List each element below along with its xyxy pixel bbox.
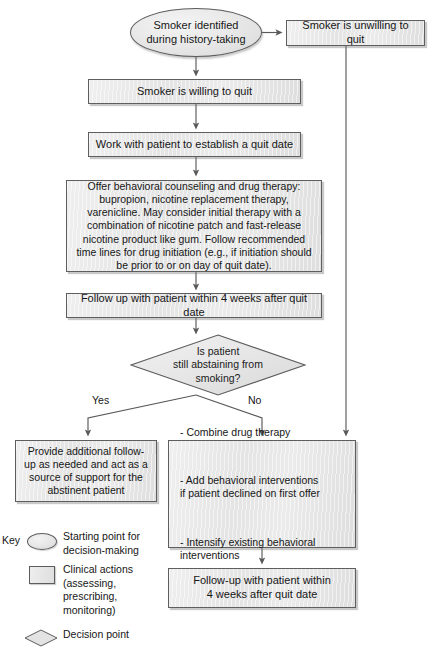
intensify-item-3: - Intensify existing behavioral interven… <box>180 536 320 562</box>
node-therapy-text: Offer behavioral counseling and drug the… <box>67 180 321 273</box>
legend-ellipse-icon <box>27 533 57 550</box>
node-provide-additional-follow-up[interactable]: Provide additional follow-up as needed a… <box>15 440 157 502</box>
node-final-follow-up-text: Follow-up with patient within 4 weeks af… <box>187 574 337 602</box>
legend-label-start-point: Starting point for decision-making <box>63 530 178 557</box>
legend-diamond-icon <box>24 629 58 647</box>
node-start-line1: Smoker identified <box>146 19 245 33</box>
intensify-item-2: - Add behavioral interventions if patien… <box>180 474 320 500</box>
node-start-smoker-identified[interactable]: Smoker identified during history-taking <box>130 8 262 57</box>
node-unwilling-text: Smoker is unwilling to quit <box>287 19 424 47</box>
node-intensify-interventions[interactable]: - Combine drug therapy - Add behavioral … <box>168 440 356 548</box>
intensify-spacer-2 <box>180 514 320 523</box>
node-offer-therapy[interactable]: Offer behavioral counseling and drug the… <box>66 180 322 272</box>
decision-label: Is patient still abstaining from smoking… <box>130 334 306 396</box>
node-final-follow-up[interactable]: Follow-up with patient within 4 weeks af… <box>168 568 356 608</box>
legend-label-decision-point: Decision point <box>63 628 178 642</box>
node-follow-up-4-weeks[interactable]: Follow up with patient within 4 weeks af… <box>66 293 322 318</box>
legend-title: Key <box>2 534 20 546</box>
final-followup-line2: 4 weeks after quit date <box>193 588 331 602</box>
legend-rectangle-icon <box>29 566 55 584</box>
node-establish-quit-date[interactable]: Work with patient to establish a quit da… <box>88 132 301 157</box>
node-quitdate-text: Work with patient to establish a quit da… <box>90 138 299 152</box>
node-decision-still-abstaining[interactable]: Is patient still abstaining from smoking… <box>130 334 306 396</box>
node-followup4w-text: Follow up with patient within 4 weeks af… <box>67 292 321 320</box>
node-intensify-list: - Combine drug therapy - Add behavioral … <box>169 412 326 575</box>
node-smoker-unwilling-to-quit[interactable]: Smoker is unwilling to quit <box>286 20 425 46</box>
legend-label-clinical-actions: Clinical actions (assessing, prescribing… <box>63 563 178 618</box>
edge-label-yes: Yes <box>92 394 109 406</box>
decision-line1: Is patient <box>173 345 263 358</box>
node-start-line2: during history-taking <box>146 33 245 47</box>
decision-line2: still abstaining from <box>173 358 263 371</box>
node-start-text: Smoker identified during history-taking <box>138 19 253 47</box>
decision-line3: smoking? <box>173 372 263 385</box>
flowchart-canvas: Smoker identified during history-taking … <box>0 0 434 658</box>
node-smoker-willing-to-quit[interactable]: Smoker is willing to quit <box>88 79 301 104</box>
node-support-text: Provide additional follow-up as needed a… <box>16 445 156 498</box>
intensify-item-1: - Combine drug therapy <box>180 426 320 439</box>
node-willing-text: Smoker is willing to quit <box>131 85 258 99</box>
intensify-spacer-1 <box>180 452 320 461</box>
final-followup-line1: Follow-up with patient within <box>193 574 331 588</box>
